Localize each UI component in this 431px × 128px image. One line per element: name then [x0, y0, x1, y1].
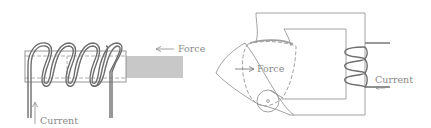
armature — [216, 43, 272, 108]
diagram-canvas: Current Force — [0, 0, 431, 128]
solenoid-coil — [28, 43, 122, 118]
current-label-left: Current — [40, 115, 78, 126]
solenoid-diagram: Current Force — [25, 43, 206, 126]
current-arrow-icon — [33, 102, 38, 124]
force-label-left: Force — [178, 43, 206, 54]
relay-diagram — [216, 13, 390, 115]
plunger — [126, 56, 183, 78]
force-label-right: Force — [257, 63, 285, 74]
force-arrow-icon — [156, 47, 174, 52]
current-label-right: Current — [375, 74, 413, 85]
force-arrow-icon-right — [235, 67, 254, 72]
yoke-inner — [282, 29, 346, 99]
